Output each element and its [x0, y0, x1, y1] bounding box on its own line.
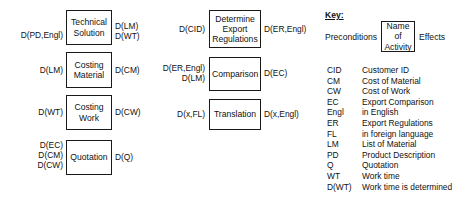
key-activity-box: Name of Activity: [381, 21, 415, 52]
effect-label-translation: D(x,Engl): [264, 110, 320, 120]
legend-desc: Export Comparison: [362, 97, 472, 108]
legend-item: CW Cost of Work: [327, 86, 472, 97]
legend-desc: Work time: [362, 171, 472, 182]
precondition-label-technical-solution: D(PD,Engl): [0, 31, 63, 41]
precondition-label-costing-work: D(WT): [0, 108, 63, 118]
precondition-label-translation: D(x,FL): [145, 110, 205, 120]
activity-determine-export-regulations[interactable]: Determine Export Regulations: [209, 10, 261, 48]
legend-abbr: PD: [327, 150, 362, 161]
activity-costing-work[interactable]: Costing Work: [66, 95, 112, 130]
activity-label: Comparison: [212, 69, 258, 79]
legend-abbr: CM: [327, 76, 362, 87]
activity-label: Determine Export Regulations: [212, 14, 258, 45]
legend-abbr: CW: [327, 86, 362, 97]
legend-item: CM Cost of Material: [327, 76, 472, 87]
activity-costing-material[interactable]: Costing Material: [66, 52, 112, 88]
legend-desc: Export Regulations: [362, 118, 472, 129]
legend-abbr: WT: [327, 171, 362, 182]
legend-abbr: LM: [327, 139, 362, 150]
legend-abbr: D(WT): [327, 182, 362, 193]
activity-label: Quotation: [69, 152, 109, 162]
legend-desc: in foreign language: [362, 129, 472, 140]
activity-label: Technical Solution: [69, 17, 109, 37]
legend-item: ER Export Regulations: [327, 118, 472, 129]
legend-desc: in English: [362, 107, 472, 118]
activity-quotation[interactable]: Quotation: [66, 140, 112, 175]
activity-translation[interactable]: Translation: [209, 99, 261, 130]
legend-desc: List of Material: [362, 139, 472, 150]
key-activity-box-label: Name of Activity: [382, 21, 414, 52]
legend-item: PD Product Description: [327, 150, 472, 161]
legend-item: LM List of Material: [327, 139, 472, 150]
legend-item: Q Quotation: [327, 160, 472, 171]
legend-item: WT Work time: [327, 171, 472, 182]
legend-desc: Work time is determined: [362, 182, 472, 193]
legend-item: EC Export Comparison: [327, 97, 472, 108]
key-title: Key:: [325, 10, 344, 20]
precondition-label-determine-export-regulations: D(CID): [145, 25, 205, 35]
precondition-label-quotation: D(EC) D(CM) D(CW): [0, 141, 63, 170]
activity-technical-solution[interactable]: Technical Solution: [66, 10, 112, 45]
legend-item: D(WT) Work time is determined: [327, 182, 472, 193]
legend-desc: Cost of Material: [362, 76, 472, 87]
activity-label: Costing Material: [69, 60, 109, 80]
key-effects-label: Effects: [419, 32, 459, 42]
activity-label: Costing Work: [69, 102, 109, 122]
legend-desc: Cost of Work: [362, 86, 472, 97]
legend-abbr: EC: [327, 97, 362, 108]
legend-abbr: Engl: [327, 107, 362, 118]
diagram-canvas: D(PD,Engl) Technical Solution D(LM) D(WT…: [0, 0, 475, 201]
precondition-label-comparison: D(ER,Engl) D(LM): [145, 64, 205, 84]
legend-desc: Customer ID: [362, 65, 472, 76]
legend-item: FL in foreign language: [327, 129, 472, 140]
activity-comparison[interactable]: Comparison: [209, 57, 261, 91]
legend-desc: Product Description: [362, 150, 472, 161]
key-legend-list: CID Customer ID CM Cost of Material CW C…: [327, 65, 472, 192]
legend-abbr: FL: [327, 129, 362, 140]
activity-label: Translation: [212, 109, 258, 119]
effect-label-determine-export-regulations: D(ER,Engl): [264, 25, 320, 35]
effect-label-comparison: D(EC): [264, 69, 320, 79]
legend-abbr: ER: [327, 118, 362, 129]
key-preconditions-label: Preconditions: [325, 32, 377, 42]
effect-label-quotation: D(Q): [115, 153, 167, 163]
legend-desc: Quotation: [362, 160, 472, 171]
legend-abbr: Q: [327, 160, 362, 171]
legend-item: CID Customer ID: [327, 65, 472, 76]
legend-abbr: CID: [327, 65, 362, 76]
legend-item: Engl in English: [327, 107, 472, 118]
precondition-label-costing-material: D(LM): [0, 66, 63, 76]
